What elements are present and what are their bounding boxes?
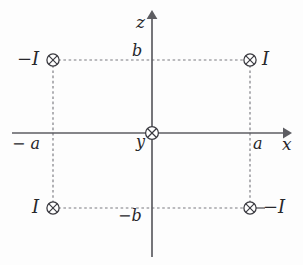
wire-symbol-bottom-right <box>244 202 256 214</box>
wire-label-bottom-right: −I <box>263 198 285 216</box>
z-axis-arrowhead <box>147 10 158 19</box>
tick-label-x-negative: − a <box>12 136 40 152</box>
wire-symbol-top-right <box>244 54 256 66</box>
wire-symbol-top-left <box>47 54 59 66</box>
diagram-svg <box>0 0 303 265</box>
wire-label-top-left: −I <box>17 50 39 68</box>
y-axis-label: y <box>136 134 145 150</box>
wire-label-top-right: I <box>262 50 269 68</box>
x-axis-label: x <box>282 136 292 153</box>
wire-symbol-bottom-left <box>47 202 59 214</box>
wire-label-bottom-left: I <box>32 198 39 216</box>
z-axis-label: z <box>136 14 145 31</box>
figure-canvas: −I I I −I z x y b −b a − a <box>0 0 303 265</box>
wire-symbol-origin <box>146 127 159 140</box>
tick-label-z-positive: b <box>132 43 142 59</box>
tick-label-z-negative: −b <box>118 208 142 224</box>
tick-label-x-positive: a <box>253 136 263 152</box>
